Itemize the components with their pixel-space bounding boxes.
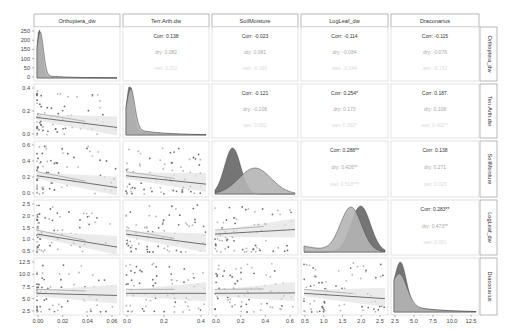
row-label: Draconarius (487, 271, 493, 301)
scatter-point (38, 128, 40, 130)
scatter-point (36, 160, 38, 162)
corr-overall: Corr: -0.115 (422, 33, 449, 39)
scatter-point (182, 311, 184, 313)
scatter-point (226, 239, 228, 241)
x-tick-label: 0.2 (160, 318, 168, 324)
scatter-point (323, 301, 325, 303)
scatter-point (149, 251, 151, 253)
corr-dry: dry: 0.473** (422, 223, 448, 229)
scatter-point (272, 250, 274, 252)
x-tick-label: 12.5 (466, 318, 477, 324)
scatter-point (159, 159, 161, 161)
scatter-point (40, 161, 42, 163)
scatter-point (49, 308, 51, 310)
scatter-point (311, 311, 313, 313)
corr-wet: wet: 0.091 (423, 239, 446, 245)
scatter-point (130, 188, 132, 190)
scatter-point (205, 231, 207, 233)
scatter-point (199, 192, 201, 194)
scatter-point (136, 266, 138, 268)
scatter-point (223, 222, 225, 224)
x-tick-label: 0.5 (301, 318, 309, 324)
corr-dry: dry: 0.271 (424, 164, 446, 170)
corr-wet: wet: -0.180 (243, 65, 268, 71)
scatter-point (181, 189, 183, 191)
panel-Terr.Arth.dw-Draconarius: Corr: 0.187.dry: 0.108wet: 0.402** (391, 84, 479, 138)
scatter-point (240, 278, 242, 280)
corr-dry: dry: 0.173 (333, 106, 355, 112)
scatter-point (38, 213, 40, 215)
panel-Draconarius-Draconarius (391, 258, 479, 315)
scatter-point (88, 223, 90, 225)
scatter-point (99, 100, 101, 102)
scatter-point (247, 208, 249, 210)
corr-overall: Corr: 0.187. (422, 90, 448, 96)
scatter-point (172, 190, 174, 192)
scatter-point (215, 245, 217, 247)
scatter-point (253, 311, 255, 313)
corr-wet: wet: -0.152 (423, 65, 448, 71)
column-label: Orthoptera_dw (58, 18, 96, 24)
scatter-point (156, 275, 158, 277)
scatter-point (234, 283, 236, 285)
scatter-point (36, 153, 38, 155)
scatter-point (129, 211, 131, 213)
scatter-point (183, 268, 185, 270)
y-tick-label: 0.6 (22, 142, 30, 148)
scatter-point (145, 306, 147, 308)
scatter-point (226, 219, 228, 221)
scatter-point (36, 305, 38, 307)
scatter-point (96, 133, 98, 135)
scatter-point (92, 94, 94, 96)
scatter-point (130, 247, 132, 249)
y-tick-label: 0.5 (22, 248, 30, 254)
scatter-point (42, 165, 44, 167)
scatter-point (309, 303, 311, 305)
panel-Orthoptera_dw-Terr.Arth.dw: Corr: 0.138dry: 0.082wet: 0.202 (123, 27, 209, 81)
scatter-point (196, 204, 198, 206)
scatter-point (166, 249, 168, 251)
scatter-point (190, 191, 192, 193)
corr-wet: wet: 0.360* (332, 122, 357, 128)
scatter-point (193, 277, 195, 279)
scatter-point (57, 93, 59, 95)
scatter-point (227, 246, 229, 248)
scatter-point (105, 311, 107, 313)
scatter-point (339, 310, 341, 312)
scatter-point (65, 127, 67, 129)
scatter-point (193, 157, 195, 159)
scatter-point (38, 244, 40, 246)
scatter-point (233, 250, 235, 252)
scatter-point (42, 272, 44, 274)
scatter-point (247, 263, 249, 265)
scatter-point (167, 245, 169, 247)
scatter-point (139, 165, 141, 167)
scatter-point (179, 214, 181, 216)
scatter-point (61, 186, 63, 188)
scatter-point (151, 264, 153, 266)
scatter-point (352, 262, 354, 264)
scatter-point (218, 268, 220, 270)
scatter-point (246, 248, 248, 250)
scatter-point (286, 245, 288, 247)
scatter-point (36, 246, 38, 248)
scatter-point (236, 218, 238, 220)
scatter-point (217, 238, 219, 240)
scatter-point (78, 272, 80, 274)
scatter-point (310, 285, 312, 287)
scatter-point (109, 223, 111, 225)
scatter-point (36, 128, 38, 130)
scatter-point (233, 217, 235, 219)
scatter-point (245, 303, 247, 305)
scatter-point (130, 191, 132, 193)
scatter-point (163, 311, 165, 313)
scatter-point (155, 266, 157, 268)
scatter-point (36, 287, 38, 289)
scatter-point (47, 161, 49, 163)
scatter-point (240, 272, 242, 274)
scatter-point (216, 221, 218, 223)
scatter-point (79, 219, 81, 221)
y-tick-label: 1.0 (22, 236, 30, 242)
panel-Terr.Arth.dw-LogLeaf_dw: Corr: 0.254*dry: 0.173wet: 0.360* (301, 84, 388, 138)
corr-dry: dry: -0.076 (423, 49, 447, 55)
